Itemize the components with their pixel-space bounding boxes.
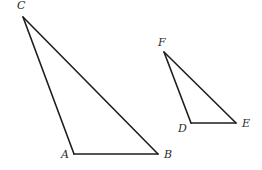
vertex-label-a: A: [60, 148, 69, 161]
triangle-def: D E F: [157, 36, 250, 135]
triangle-abc: A B C: [17, 0, 172, 161]
similar-triangles-diagram: A B C D E F: [0, 0, 262, 170]
edge-ac: [23, 17, 74, 154]
vertex-label-e: E: [241, 117, 250, 130]
vertex-label-f: F: [157, 36, 166, 49]
edge-bc: [23, 17, 158, 154]
vertex-label-b: B: [163, 148, 172, 161]
vertex-label-d: D: [177, 122, 187, 135]
edge-ef: [164, 52, 236, 123]
edge-df: [164, 52, 191, 123]
vertex-label-c: C: [17, 0, 26, 12]
